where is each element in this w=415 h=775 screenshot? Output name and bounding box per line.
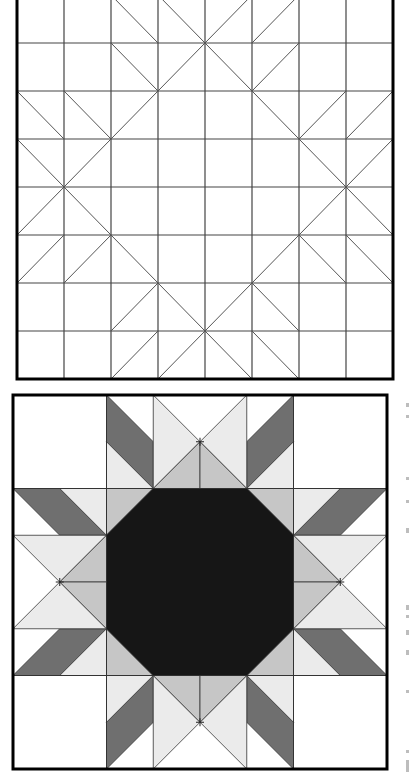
diagonal-line <box>17 0 252 235</box>
cropped-caption-text <box>404 395 414 775</box>
diagonal-line <box>299 235 346 283</box>
diagonal-line <box>346 235 393 283</box>
diagonal-line <box>111 283 158 331</box>
diagonal-line <box>17 139 252 379</box>
diagonal-line <box>64 235 111 283</box>
center-octagon <box>107 489 294 676</box>
diagonal-line <box>252 283 299 331</box>
diagonal-line <box>111 43 158 91</box>
diagonal-line <box>64 91 111 139</box>
diagonal-line <box>252 331 299 379</box>
diagonal-line <box>17 91 64 139</box>
diagonal-line <box>299 91 346 139</box>
diagonal-line <box>111 0 158 43</box>
diagonal-line <box>158 0 393 235</box>
shaded-quilt-block <box>13 395 387 769</box>
line-drawing-diagram <box>17 0 393 379</box>
diagonal-line <box>111 331 158 379</box>
diagonal-line <box>252 0 299 43</box>
quilt-figure <box>0 0 415 775</box>
diagonal-line <box>17 235 64 283</box>
diagonal-line <box>252 43 299 91</box>
diagonal-line <box>346 91 393 139</box>
diagonal-line <box>158 139 393 379</box>
